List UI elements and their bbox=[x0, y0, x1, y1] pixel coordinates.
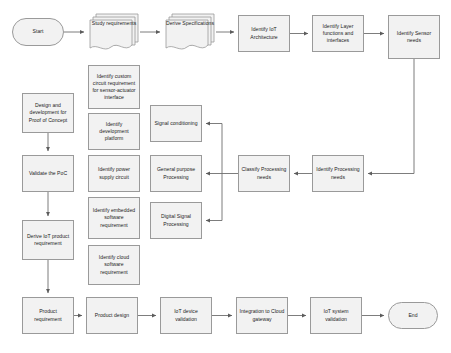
node-start-label: Start bbox=[15, 28, 61, 35]
node-design-and-development-poc-label: Design and development for Proof of Conc… bbox=[25, 102, 71, 124]
edge-classify-to-sig-cond bbox=[206, 124, 222, 174]
node-product-design[interactable]: Product design bbox=[86, 297, 138, 334]
node-identify-processing-needs[interactable]: Identify Processing needs bbox=[312, 155, 364, 192]
node-iot-device-validation-label: IoT device validation bbox=[163, 308, 209, 322]
node-identify-embedded-software-label: Identify embedded software requirement bbox=[91, 207, 137, 229]
node-identify-sensor-needs-label: Identify Sensor needs bbox=[391, 30, 437, 44]
node-product-requirement-label: Product requirement bbox=[25, 308, 71, 322]
node-iot-system-validation-label: IoT system validation bbox=[313, 308, 359, 322]
node-identify-development-platform-label: Identify development platform bbox=[91, 121, 137, 143]
node-identify-sensor-needs[interactable]: Identify Sensor needs bbox=[388, 15, 440, 59]
node-validate-the-poc[interactable]: Validate the PoC bbox=[22, 155, 74, 192]
edge-classify-to-dsp bbox=[206, 174, 222, 221]
node-study-requirements[interactable]: Study requirements bbox=[88, 12, 140, 54]
node-design-and-development-poc[interactable]: Design and development for Proof of Conc… bbox=[22, 93, 74, 133]
node-digital-signal-processing-label: Digital Signal Processing bbox=[153, 213, 199, 227]
node-integration-to-cloud-gateway-label: Integration to Cloud gateway bbox=[239, 308, 285, 322]
edge-sensor-needs-to-ident-proc bbox=[368, 59, 414, 174]
node-identify-custom-circuit[interactable]: Identify custom circuit requirement for … bbox=[88, 65, 140, 109]
node-identify-development-platform[interactable]: Identify development platform bbox=[88, 113, 140, 150]
node-classify-processing-needs-label: Classify Processing needs bbox=[241, 166, 287, 180]
node-iot-system-validation[interactable]: IoT system validation bbox=[310, 297, 362, 334]
node-digital-signal-processing[interactable]: Digital Signal Processing bbox=[150, 202, 202, 239]
node-identify-layer-functions[interactable]: Identify Layer functions and interfaces bbox=[312, 15, 364, 52]
node-integration-to-cloud-gateway[interactable]: Integration to Cloud gateway bbox=[236, 297, 288, 334]
node-general-purpose-processing[interactable]: General purpose Processing bbox=[150, 155, 202, 192]
node-iot-device-validation[interactable]: IoT device validation bbox=[160, 297, 212, 334]
node-identify-processing-needs-label: Identify Processing needs bbox=[315, 166, 361, 180]
node-general-purpose-processing-label: General purpose Processing bbox=[153, 166, 199, 180]
node-classify-processing-needs[interactable]: Classify Processing needs bbox=[238, 155, 290, 192]
node-validate-the-poc-label: Validate the PoC bbox=[25, 170, 71, 177]
node-end[interactable]: End bbox=[388, 302, 438, 329]
multidocument-shape bbox=[88, 12, 140, 54]
node-identify-power-supply-circuit[interactable]: Identify power supply circuit bbox=[88, 155, 140, 192]
multidocument-shape bbox=[164, 12, 216, 54]
node-product-design-label: Product design bbox=[89, 312, 135, 319]
node-signal-conditioning-label: Signal conditioning bbox=[153, 120, 199, 127]
flowchart-canvas: Start End Study requirements Derive Spec… bbox=[0, 0, 451, 353]
node-identify-embedded-software[interactable]: Identify embedded software requirement bbox=[88, 197, 140, 239]
node-identify-cloud-software[interactable]: Identify cloud software requirement bbox=[88, 245, 140, 285]
node-identify-layer-functions-label: Identify Layer functions and interfaces bbox=[315, 23, 361, 45]
node-identify-iot-architecture-label: Identify IoT Architecture bbox=[241, 26, 287, 40]
node-start[interactable]: Start bbox=[12, 18, 64, 46]
node-end-label: End bbox=[391, 312, 435, 319]
node-derive-specifications[interactable]: Derive Specifications bbox=[164, 12, 216, 54]
node-derive-iot-product-requirement-label: Derive IoT product requirement bbox=[25, 233, 71, 247]
node-product-requirement[interactable]: Product requirement bbox=[22, 297, 74, 334]
node-signal-conditioning[interactable]: Signal conditioning bbox=[150, 105, 202, 142]
node-identify-custom-circuit-label: Identify custom circuit requirement for … bbox=[91, 73, 137, 102]
node-identify-iot-architecture[interactable]: Identify IoT Architecture bbox=[238, 15, 290, 52]
node-derive-iot-product-requirement[interactable]: Derive IoT product requirement bbox=[22, 220, 74, 260]
node-identify-cloud-software-label: Identify cloud software requirement bbox=[91, 254, 137, 276]
node-identify-power-supply-circuit-label: Identify power supply circuit bbox=[91, 166, 137, 180]
